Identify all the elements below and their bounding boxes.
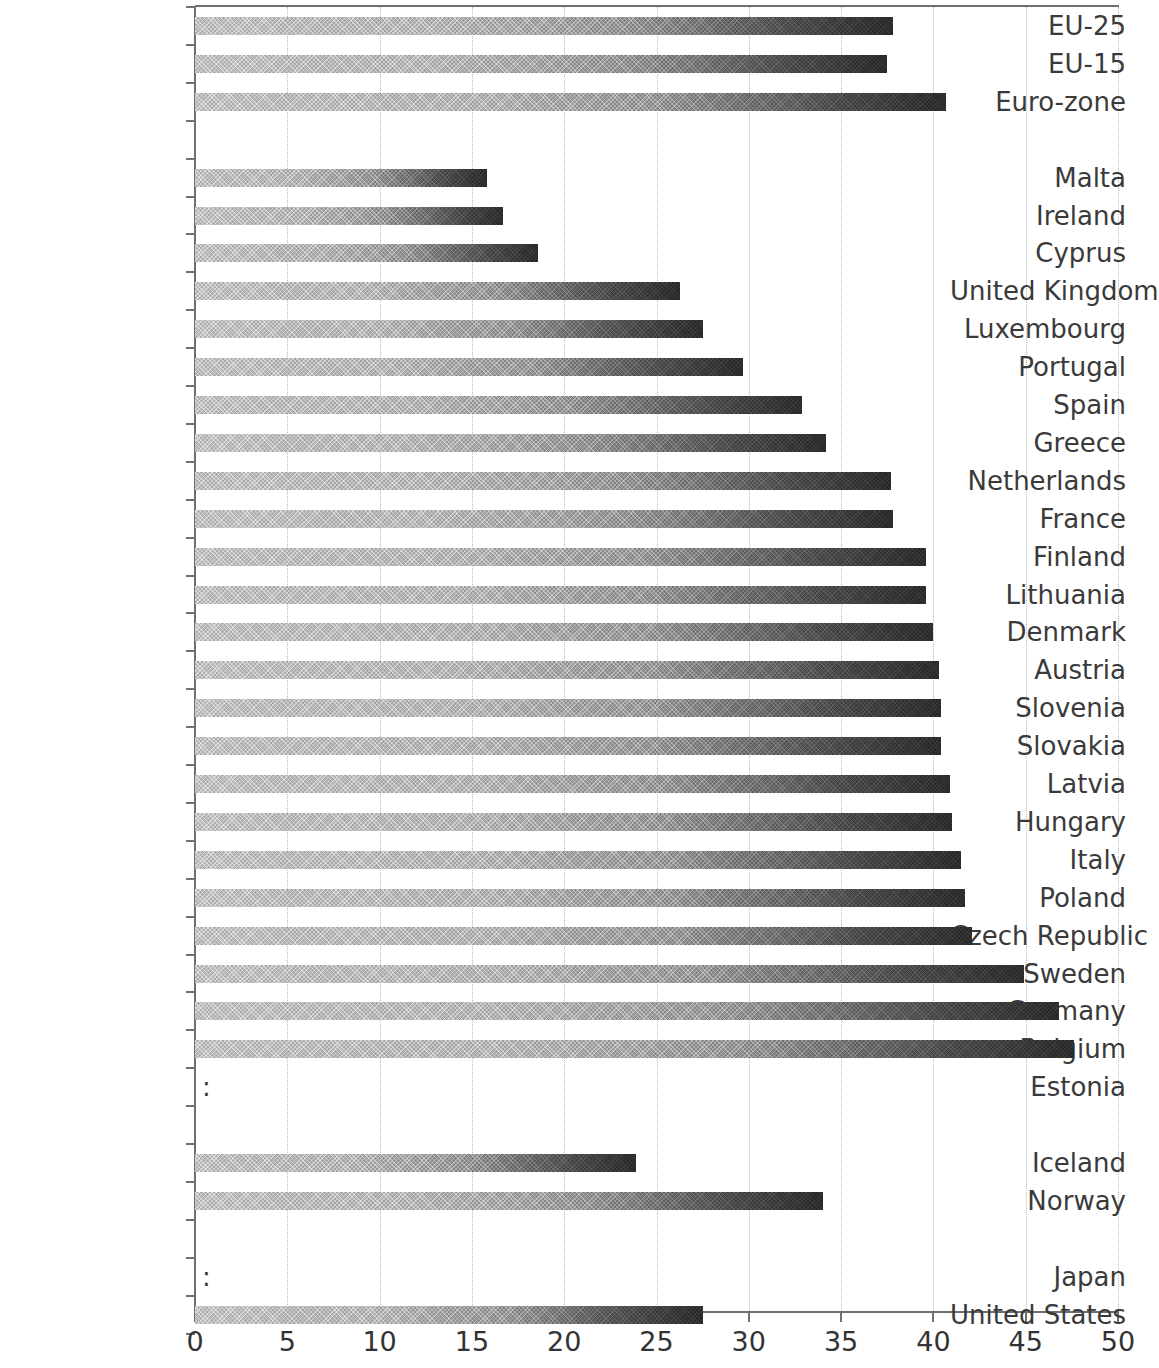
x-axis-tick-label: 20 bbox=[547, 1326, 581, 1357]
y-axis-tick bbox=[186, 1219, 195, 1221]
y-axis-tick bbox=[186, 196, 195, 198]
category-label-italy: Italy bbox=[950, 845, 1135, 875]
category-label-finland: Finland bbox=[950, 542, 1135, 572]
category-label-latvia: Latvia bbox=[950, 769, 1135, 799]
bar bbox=[195, 699, 941, 717]
y-axis-tick bbox=[186, 271, 195, 273]
category-label-spain: Spain bbox=[950, 390, 1135, 420]
missing-value-marker: : bbox=[202, 1074, 211, 1100]
gridline-15 bbox=[472, 7, 473, 1311]
y-axis-tick bbox=[186, 650, 195, 652]
bar bbox=[195, 510, 893, 528]
category-label-euro-zone: Euro-zone bbox=[950, 87, 1135, 117]
x-axis-tick-label: 15 bbox=[455, 1326, 489, 1357]
x-axis-tick-35 bbox=[840, 1313, 842, 1322]
bar bbox=[195, 813, 952, 831]
x-axis-tick-label: 30 bbox=[732, 1326, 766, 1357]
y-axis-tick bbox=[186, 158, 195, 160]
bar bbox=[195, 93, 946, 111]
y-axis-tick bbox=[186, 385, 195, 387]
category-label-japan: Japan bbox=[950, 1262, 1135, 1292]
missing-value-marker: : bbox=[202, 1264, 211, 1290]
x-axis-tick-label: 45 bbox=[1009, 1326, 1043, 1357]
bar bbox=[195, 244, 538, 262]
y-axis-tick bbox=[186, 764, 195, 766]
category-label-portugal: Portugal bbox=[950, 352, 1135, 382]
y-axis-tick bbox=[186, 423, 195, 425]
y-axis-tick bbox=[186, 82, 195, 84]
bar bbox=[195, 1192, 823, 1210]
category-label-iceland: Iceland bbox=[950, 1148, 1135, 1178]
bar bbox=[195, 1002, 1059, 1020]
y-axis-tick bbox=[186, 1105, 195, 1107]
y-axis-tick bbox=[186, 1029, 195, 1031]
x-axis-tick-40 bbox=[932, 1313, 934, 1322]
y-axis-tick bbox=[186, 612, 195, 614]
bar bbox=[195, 358, 743, 376]
bar bbox=[195, 282, 680, 300]
bar bbox=[195, 207, 503, 225]
bar bbox=[195, 927, 972, 945]
y-axis-tick bbox=[186, 499, 195, 501]
y-axis-tick bbox=[186, 461, 195, 463]
x-axis-tick-label: 0 bbox=[186, 1326, 203, 1357]
bar bbox=[195, 55, 887, 73]
category-label-slovenia: Slovenia bbox=[950, 693, 1135, 723]
x-axis-tick-label: 40 bbox=[916, 1326, 950, 1357]
x-axis-tick-label: 5 bbox=[279, 1326, 296, 1357]
category-label-luxembourg: Luxembourg bbox=[950, 314, 1135, 344]
gridline-10 bbox=[380, 7, 381, 1311]
y-axis-tick bbox=[186, 233, 195, 235]
y-axis-tick bbox=[186, 878, 195, 880]
category-label-eu-15: EU-15 bbox=[950, 49, 1135, 79]
category-label-cyprus: Cyprus bbox=[950, 238, 1135, 268]
bar bbox=[195, 737, 941, 755]
y-axis-tick bbox=[186, 44, 195, 46]
bar bbox=[195, 320, 703, 338]
category-label-malta: Malta bbox=[950, 163, 1135, 193]
bar bbox=[195, 472, 891, 490]
category-label-ireland: Ireland bbox=[950, 201, 1135, 231]
y-axis-tick bbox=[186, 120, 195, 122]
y-axis-tick bbox=[186, 347, 195, 349]
category-label-netherlands: Netherlands bbox=[950, 466, 1135, 496]
bar bbox=[195, 965, 1024, 983]
category-label-france: France bbox=[950, 504, 1135, 534]
y-axis-tick bbox=[186, 1295, 195, 1297]
category-label-eu-25: EU-25 bbox=[950, 11, 1135, 41]
category-label-united-states: United States bbox=[950, 1300, 1135, 1330]
bar bbox=[195, 851, 961, 869]
bar bbox=[195, 889, 965, 907]
x-axis-tick-label: 10 bbox=[362, 1326, 396, 1357]
y-axis-tick bbox=[186, 537, 195, 539]
bar bbox=[195, 775, 950, 793]
category-label-united-kingdom: United Kingdom bbox=[950, 276, 1135, 306]
bar bbox=[195, 548, 926, 566]
y-axis-tick bbox=[186, 575, 195, 577]
y-axis-tick bbox=[186, 309, 195, 311]
y-axis-tick bbox=[186, 840, 195, 842]
bar bbox=[195, 586, 926, 604]
bar bbox=[195, 1154, 636, 1172]
bar bbox=[195, 1306, 703, 1324]
category-label-austria: Austria bbox=[950, 655, 1135, 685]
y-axis-tick bbox=[186, 954, 195, 956]
y-axis-tick bbox=[186, 1181, 195, 1183]
bar bbox=[195, 434, 826, 452]
category-label-hungary: Hungary bbox=[950, 807, 1135, 837]
bar bbox=[195, 169, 487, 187]
y-axis-tick bbox=[186, 1067, 195, 1069]
x-axis-tick-label: 35 bbox=[824, 1326, 858, 1357]
category-label-norway: Norway bbox=[950, 1186, 1135, 1216]
x-axis-tick-label: 25 bbox=[639, 1326, 673, 1357]
y-axis-tick bbox=[186, 726, 195, 728]
y-axis-tick bbox=[186, 916, 195, 918]
bar bbox=[195, 623, 933, 641]
x-axis-tick-label: 50 bbox=[1101, 1326, 1135, 1357]
category-label-czech-republic: Czech Republic bbox=[950, 921, 1135, 951]
y-axis-line bbox=[194, 6, 196, 1313]
y-axis-tick bbox=[186, 688, 195, 690]
y-axis-tick bbox=[186, 991, 195, 993]
category-label-poland: Poland bbox=[950, 883, 1135, 913]
bar bbox=[195, 1040, 1074, 1058]
